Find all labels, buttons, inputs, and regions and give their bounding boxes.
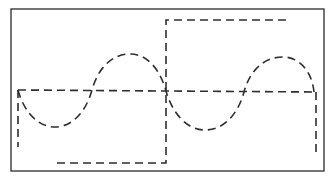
waveform-diagram bbox=[0, 0, 330, 185]
